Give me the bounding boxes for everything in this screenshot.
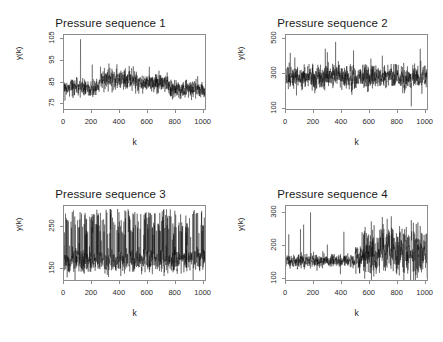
x-tick-mark <box>119 281 120 284</box>
x-tick-mark <box>147 281 148 284</box>
y-axis-label: y(k) <box>236 47 245 60</box>
x-tick-mark <box>203 281 204 284</box>
y-tick-label: 100 <box>269 266 278 288</box>
y-tick-label: 200 <box>269 233 278 255</box>
x-tick-label: 400 <box>106 117 132 126</box>
x-tick-label: 200 <box>78 117 104 126</box>
x-tick-mark <box>369 110 370 113</box>
chart-panel-2: Pressure sequence 2 y(k) k 0200400600800… <box>222 0 443 171</box>
x-tick-label: 1000 <box>412 288 438 297</box>
x-tick-mark <box>397 281 398 284</box>
x-tick-mark <box>397 110 398 113</box>
figure-panel-grid: Pressure sequence 1 y(k) k 0200400600800… <box>0 0 443 342</box>
y-axis-label: y(k) <box>14 218 23 231</box>
x-tick-label: 800 <box>384 288 410 297</box>
x-tick-label: 600 <box>134 288 160 297</box>
y-tick-label: 250 <box>47 215 56 237</box>
panel-title: Pressure sequence 1 <box>0 17 221 29</box>
x-tick-mark <box>313 281 314 284</box>
y-tick-label: 500 <box>269 26 278 48</box>
plot-area <box>285 205 428 281</box>
x-tick-mark <box>91 281 92 284</box>
x-tick-label: 0 <box>50 117 76 126</box>
series-trace <box>286 206 427 280</box>
x-tick-label: 800 <box>162 117 188 126</box>
x-tick-label: 1000 <box>190 288 216 297</box>
x-tick-label: 800 <box>162 288 188 297</box>
y-tick-label: 85 <box>47 70 56 92</box>
x-tick-label: 600 <box>356 117 382 126</box>
series-trace <box>64 206 205 280</box>
chart-panel-3: Pressure sequence 3 y(k) k 0200400600800… <box>0 171 221 342</box>
x-tick-mark <box>425 281 426 284</box>
x-tick-mark <box>175 110 176 113</box>
x-tick-label: 0 <box>272 288 298 297</box>
series-trace <box>64 35 205 109</box>
panel-title: Pressure sequence 3 <box>0 188 221 200</box>
x-tick-mark <box>175 281 176 284</box>
x-axis-label: k <box>285 308 428 318</box>
x-tick-label: 400 <box>328 288 354 297</box>
x-tick-label: 400 <box>106 288 132 297</box>
x-tick-label: 200 <box>78 288 104 297</box>
x-tick-mark <box>341 281 342 284</box>
x-tick-label: 200 <box>300 117 326 126</box>
x-tick-label: 800 <box>384 117 410 126</box>
chart-panel-4: Pressure sequence 4 y(k) k 0200400600800… <box>222 171 443 342</box>
y-axis-label: y(k) <box>236 218 245 231</box>
x-tick-label: 400 <box>328 117 354 126</box>
y-tick-label: 300 <box>269 61 278 83</box>
x-tick-label: 1000 <box>190 117 216 126</box>
plot-area <box>63 205 206 281</box>
x-tick-mark <box>63 281 64 284</box>
x-tick-mark <box>147 110 148 113</box>
x-tick-mark <box>313 110 314 113</box>
x-tick-mark <box>425 110 426 113</box>
y-tick-label: 95 <box>47 49 56 71</box>
x-tick-label: 0 <box>50 288 76 297</box>
x-axis-label: k <box>63 137 206 147</box>
y-tick-label: 100 <box>269 97 278 119</box>
x-tick-mark <box>341 110 342 113</box>
x-tick-mark <box>203 110 204 113</box>
x-tick-label: 0 <box>272 117 298 126</box>
x-tick-mark <box>369 281 370 284</box>
y-tick-label: 105 <box>47 27 56 49</box>
x-axis-label: k <box>63 308 206 318</box>
series-trace <box>286 35 427 109</box>
panel-title: Pressure sequence 2 <box>222 17 443 29</box>
panel-title: Pressure sequence 4 <box>222 188 443 200</box>
x-tick-label: 600 <box>356 288 382 297</box>
y-tick-label: 150 <box>47 257 56 279</box>
x-tick-mark <box>285 110 286 113</box>
x-tick-mark <box>91 110 92 113</box>
chart-panel-1: Pressure sequence 1 y(k) k 0200400600800… <box>0 0 221 171</box>
plot-area <box>63 34 206 110</box>
x-tick-label: 1000 <box>412 117 438 126</box>
x-axis-label: k <box>285 137 428 147</box>
x-tick-mark <box>119 110 120 113</box>
x-tick-mark <box>285 281 286 284</box>
x-tick-mark <box>63 110 64 113</box>
plot-area <box>285 34 428 110</box>
x-tick-label: 200 <box>300 288 326 297</box>
y-tick-label: 75 <box>47 92 56 114</box>
y-axis-label: y(k) <box>14 47 23 60</box>
x-tick-label: 600 <box>134 117 160 126</box>
y-tick-label: 300 <box>269 200 278 222</box>
